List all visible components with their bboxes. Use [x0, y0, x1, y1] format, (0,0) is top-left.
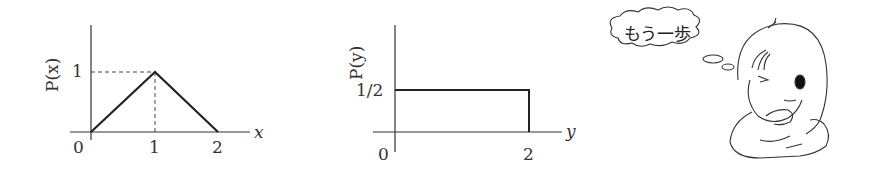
x-tick-2: 2	[212, 137, 223, 157]
uniform-distribution	[395, 90, 529, 132]
x-axis-label: x	[254, 122, 264, 142]
cartoon-character: もう一歩	[610, 7, 828, 158]
speech-bubble-text: もう一歩	[624, 24, 691, 44]
y-axis-label: P(x)	[42, 58, 62, 92]
chart-py: 1/2 0 2 y P(y)	[346, 25, 576, 164]
x-tick-2: 2	[523, 144, 534, 164]
open-eye	[795, 75, 805, 89]
y-axis-label-x: y	[565, 121, 576, 141]
hair-tuft	[768, 18, 776, 28]
winking-eye	[758, 76, 768, 82]
y-tick-1: 1	[72, 61, 83, 81]
x-tick-0: 0	[73, 137, 84, 157]
thought-dot-large	[703, 55, 723, 63]
bangs	[752, 50, 770, 70]
arms-outline	[730, 112, 829, 158]
x-tick-0: 0	[378, 144, 389, 164]
chart-px: 1 0 1 2 x P(x)	[42, 25, 264, 157]
py-axis-label: P(y)	[346, 46, 366, 80]
thought-dot-small	[722, 64, 734, 70]
mouth	[784, 100, 796, 101]
folded-arm	[760, 136, 802, 148]
x-tick-1: 1	[149, 137, 160, 157]
y-tick-half: 1/2	[356, 80, 383, 100]
hair-outline	[738, 24, 827, 134]
figure: 1 0 1 2 x P(x) 1/2 0 2 y P(y) もう一歩	[0, 0, 874, 169]
